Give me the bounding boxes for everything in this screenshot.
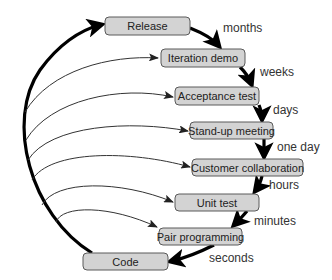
- node-iteration-demo: Iteration demo: [161, 49, 245, 67]
- node-pair-programming: Pair programming: [157, 228, 244, 245]
- node-label: Unit test: [197, 197, 237, 209]
- node-release: Release: [105, 17, 190, 35]
- feedback-arrow-acceptance-test: [26, 93, 173, 140]
- feedback-arrow-customer-collaboration: [32, 156, 190, 180]
- node-stand-up-meeting: Stand-up meeting: [188, 122, 275, 139]
- feedback-loop-diagram: Release Iteration demo Acceptance test S…: [0, 0, 332, 280]
- arrow-iteration-demo-to-acceptance-test: [240, 67, 251, 83]
- code-to-release-arrow: [24, 25, 100, 253]
- node-code: Code: [83, 253, 168, 270]
- node-label: Iteration demo: [168, 52, 238, 64]
- timescale-label-one-day: one day: [277, 140, 320, 154]
- node-label: Stand-up meeting: [188, 125, 275, 137]
- timescale-label-days: days: [273, 103, 298, 117]
- timescale-label-minutes: minutes: [254, 214, 296, 228]
- node-unit-test: Unit test: [175, 194, 259, 211]
- node-label: Customer collaboration: [191, 162, 304, 174]
- node-customer-collaboration: Customer collaboration: [191, 159, 304, 176]
- arrow-acceptance-test-to-stand-up: [259, 105, 262, 118]
- node-label: Acceptance test: [178, 90, 256, 102]
- node-acceptance-test: Acceptance test: [175, 87, 259, 105]
- timescale-label-hours: hours: [269, 178, 299, 192]
- arrow-pair-programming-to-code: [172, 245, 214, 261]
- feedback-arrow-pair-programming: [56, 210, 157, 227]
- arrow-release-to-iteration-demo: [190, 28, 218, 45]
- arrow-customer-collaboration-to-unit-test: [256, 176, 262, 190]
- node-label: Pair programming: [157, 231, 244, 243]
- timescale-label-months: months: [223, 21, 262, 35]
- feedback-arrow-stand-up-meeting: [28, 126, 188, 160]
- node-label: Release: [127, 20, 167, 32]
- timescale-label-weeks: weeks: [259, 65, 294, 79]
- node-label: Code: [112, 256, 138, 268]
- timescale-label-seconds: seconds: [209, 251, 254, 265]
- arrow-unit-test-to-pair-programming: [235, 211, 247, 224]
- feedback-arrow-unit-test: [42, 186, 173, 205]
